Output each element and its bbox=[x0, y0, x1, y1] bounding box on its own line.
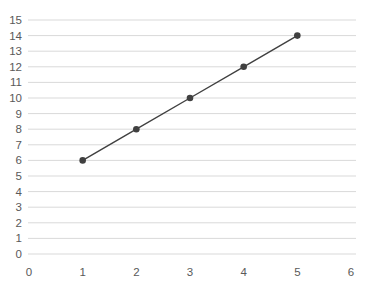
y-axis-tick-label: 4 bbox=[16, 186, 23, 198]
y-axis-tick-label: 10 bbox=[9, 92, 22, 104]
x-axis-tick-label: 3 bbox=[187, 266, 193, 278]
y-axis-tick-label: 6 bbox=[16, 154, 22, 166]
x-axis-tick-label: 0 bbox=[26, 266, 32, 278]
y-axis-tick-label: 3 bbox=[16, 201, 22, 213]
data-point-marker bbox=[240, 64, 247, 71]
y-axis-tick-label: 13 bbox=[9, 45, 22, 57]
data-point-marker bbox=[133, 126, 140, 133]
y-axis-tick-label: 15 bbox=[9, 14, 22, 26]
x-axis-tick-label: 4 bbox=[240, 266, 247, 278]
data-point-marker bbox=[79, 157, 86, 164]
y-axis-tick-label: 11 bbox=[10, 76, 22, 88]
y-axis-tick-label: 5 bbox=[16, 170, 22, 182]
data-point-marker bbox=[294, 32, 301, 39]
y-axis-tick-label: 9 bbox=[16, 108, 22, 120]
y-axis-tick-label: 2 bbox=[16, 217, 22, 229]
x-axis-tick-label: 2 bbox=[133, 266, 139, 278]
y-axis-tick-label: 8 bbox=[16, 123, 22, 135]
chart-canvas: 01234567891011121314150123456 bbox=[0, 0, 365, 288]
scatter-chart: 01234567891011121314150123456 bbox=[0, 0, 365, 288]
x-axis-tick-label: 1 bbox=[79, 266, 85, 278]
x-axis-tick-label: 5 bbox=[294, 266, 300, 278]
y-axis-tick-label: 7 bbox=[16, 139, 22, 151]
y-axis-tick-label: 0 bbox=[16, 248, 22, 260]
x-axis-tick-label: 6 bbox=[348, 266, 354, 278]
data-point-marker bbox=[187, 95, 194, 102]
y-axis-tick-label: 14 bbox=[9, 30, 22, 42]
y-axis-tick-label: 12 bbox=[9, 61, 22, 73]
y-axis-tick-label: 1 bbox=[16, 232, 22, 244]
